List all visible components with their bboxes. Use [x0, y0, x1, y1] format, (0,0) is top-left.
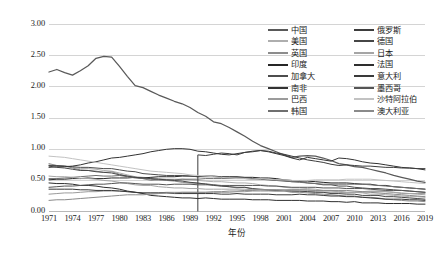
legend-label: 南非 [291, 84, 307, 92]
legend-color-swatch [268, 64, 288, 66]
legend-label: 墨西哥 [377, 84, 401, 92]
series-line [49, 149, 425, 170]
x-axis-title: 年份 [49, 228, 425, 238]
legend-label: 英国 [291, 49, 307, 57]
gridline [49, 211, 425, 212]
legend-label: 法国 [377, 60, 393, 68]
x-axis-tick-label: 2019 [410, 214, 440, 223]
legend-color-swatch [268, 75, 288, 77]
legend-label: 俄罗斯 [377, 26, 401, 34]
legend-color-swatch [268, 110, 288, 112]
legend-color-swatch [354, 75, 374, 77]
legend-item[interactable]: 意大利 [354, 70, 440, 82]
chart-container: 单位GDP碳排放量(kgCO2/GDP) 3.002.502.001.501.0… [0, 0, 447, 253]
legend-item[interactable]: 沙特阿拉伯 [354, 94, 440, 106]
y-axis-tick-label: 0.50 [3, 175, 45, 183]
legend-item[interactable]: 德国 [354, 36, 440, 48]
series-line [49, 156, 425, 183]
legend-color-swatch [354, 29, 374, 31]
legend-item[interactable]: 美国 [268, 36, 354, 48]
y-axis-tick-label: 1.50 [3, 113, 45, 121]
chart-legend: 中国俄罗斯美国德国英国日本印度法国加拿大意大利南非墨西哥巴西沙特阿拉伯韩国澳大利… [268, 24, 440, 120]
legend-label: 沙特阿拉伯 [377, 95, 417, 103]
legend-item[interactable]: 南非 [268, 82, 354, 94]
legend-color-swatch [268, 98, 288, 100]
legend-color-swatch [354, 87, 374, 89]
legend-label: 澳大利亚 [377, 107, 409, 115]
legend-color-swatch [268, 29, 288, 31]
legend-label: 美国 [291, 37, 307, 45]
y-axis-tick-label: 3.00 [3, 20, 45, 28]
legend-color-swatch [354, 64, 374, 66]
legend-label: 加拿大 [291, 72, 315, 80]
y-axis-tick-label: 2.50 [3, 51, 45, 59]
legend-item[interactable]: 巴西 [268, 94, 354, 106]
legend-item[interactable]: 英国 [268, 47, 354, 59]
legend-color-swatch [268, 40, 288, 42]
legend-label: 巴西 [291, 95, 307, 103]
y-axis-tick-label: 2.00 [3, 82, 45, 90]
legend-color-swatch [268, 52, 288, 54]
legend-color-swatch [268, 87, 288, 89]
legend-color-swatch [354, 98, 374, 100]
legend-item[interactable]: 俄罗斯 [354, 24, 440, 36]
legend-label: 韩国 [291, 107, 307, 115]
legend-item[interactable]: 印度 [268, 59, 354, 71]
legend-label: 意大利 [377, 72, 401, 80]
y-axis-tick-label: 1.00 [3, 144, 45, 152]
legend-item[interactable]: 墨西哥 [354, 82, 440, 94]
legend-label: 德国 [377, 37, 393, 45]
legend-item[interactable]: 韩国 [268, 105, 354, 117]
legend-item[interactable]: 澳大利亚 [354, 105, 440, 117]
legend-color-swatch [354, 52, 374, 54]
legend-item[interactable]: 加拿大 [268, 70, 354, 82]
legend-label: 印度 [291, 60, 307, 68]
legend-item[interactable]: 法国 [354, 59, 440, 71]
legend-label: 日本 [377, 49, 393, 57]
legend-item[interactable]: 日本 [354, 47, 440, 59]
legend-color-swatch [354, 110, 374, 112]
legend-label: 中国 [291, 26, 307, 34]
legend-item[interactable]: 中国 [268, 24, 354, 36]
legend-color-swatch [354, 40, 374, 42]
